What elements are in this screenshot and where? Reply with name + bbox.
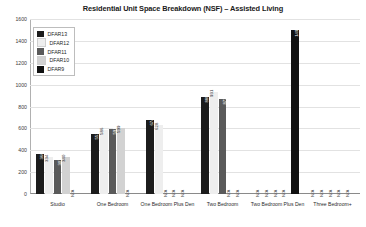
bar-slot: N/A xyxy=(311,19,319,194)
bar-value-label: 599 xyxy=(117,126,121,133)
legend-label: DFAR9 xyxy=(48,66,65,72)
bar[interactable]: 334 xyxy=(45,157,53,194)
x-axis-category-label: One Bedroom xyxy=(85,196,140,218)
y-axis-tick-label: 1200 xyxy=(15,60,27,66)
bar-slot: N/A xyxy=(265,19,273,194)
chart-legend: DFAR13DFAR12DFAR11DFAR10DFAR9 xyxy=(33,27,75,76)
y-axis-tick-label: 400 xyxy=(18,147,27,153)
y-axis-tick-label: 1400 xyxy=(15,38,27,44)
bar-value-label: 931 xyxy=(209,90,213,97)
x-axis-category-label: Two Bedroom xyxy=(195,196,250,218)
bar-slot: N/A xyxy=(329,19,337,194)
bar-slot: 931 xyxy=(210,19,218,194)
bar-slot: N/A xyxy=(320,19,328,194)
bar-slot: 628 xyxy=(155,19,163,194)
bar[interactable]: 340 xyxy=(62,157,70,194)
legend-swatch xyxy=(37,56,46,65)
legend-swatch xyxy=(37,66,44,73)
y-axis-tick-label: 1000 xyxy=(15,82,27,88)
y-axis-tick-label: 800 xyxy=(18,104,27,110)
chart-container: Residential Unit Space Breakdown (NSF) –… xyxy=(0,0,366,227)
legend-label: DFAR11 xyxy=(48,49,67,55)
legend-swatch xyxy=(37,48,44,55)
bar[interactable]: 1497 xyxy=(291,30,299,194)
bar-slot: 586 xyxy=(100,19,108,194)
bar-value-label: 1497 xyxy=(295,27,299,37)
bar-value-label: 340 xyxy=(62,154,66,161)
bar-group: 888931873N/AN/A xyxy=(195,19,250,194)
bar-slot: N/A xyxy=(181,19,189,194)
bar-value-label: 873 xyxy=(223,97,227,104)
y-axis-tick-label: 1600 xyxy=(15,16,27,22)
bar[interactable]: 591 xyxy=(109,129,117,194)
bar[interactable]: 307 xyxy=(54,160,62,194)
bar-group: N/AN/AN/AN/A1497 xyxy=(250,19,305,194)
bar-slot: N/A xyxy=(126,19,134,194)
bar-slot: 674 xyxy=(146,19,154,194)
legend-item[interactable]: DFAR9 xyxy=(37,66,69,73)
legend-label: DFAR10 xyxy=(50,57,70,63)
legend-label: DFAR12 xyxy=(50,40,70,46)
x-axis-category-label: Three Bedroom+ xyxy=(305,196,360,218)
bar[interactable]: 551 xyxy=(91,134,99,194)
bar[interactable]: 599 xyxy=(117,128,125,194)
bar-slot: N/A xyxy=(337,19,345,194)
bar-slot: 1497 xyxy=(291,19,299,194)
bar-slot: N/A xyxy=(172,19,180,194)
y-axis-tick-label: 600 xyxy=(18,125,27,131)
bar-slot: N/A xyxy=(164,19,172,194)
bar-slot: 591 xyxy=(109,19,117,194)
y-axis-tick-label: 200 xyxy=(18,169,27,175)
bar-slot: N/A xyxy=(256,19,264,194)
bar-value-label: 334 xyxy=(44,155,48,162)
legend-label: DFAR13 xyxy=(48,31,68,37)
legend-item[interactable]: DFAR13 xyxy=(37,31,69,38)
legend-item[interactable]: DFAR11 xyxy=(37,48,69,55)
legend-swatch xyxy=(37,38,46,47)
bar-slot: N/A xyxy=(346,19,354,194)
bar-value-label: 586 xyxy=(99,127,103,134)
bar[interactable]: 931 xyxy=(210,92,218,194)
bar-slot: 551 xyxy=(91,19,99,194)
bar[interactable]: 628 xyxy=(155,125,163,194)
plot-area: 02004006008001000120014001600 3663343073… xyxy=(30,19,360,194)
legend-item[interactable]: DFAR12 xyxy=(37,38,69,47)
bar[interactable]: 674 xyxy=(146,120,154,194)
bar-slot: N/A xyxy=(274,19,282,194)
bar-group: N/AN/AN/AN/AN/A xyxy=(305,19,360,194)
x-axis-category-label: Studio xyxy=(30,196,85,218)
bar-groups: 366334307340N/A551586591599N/A674628N/AN… xyxy=(30,19,360,194)
bar-group: 551586591599N/A xyxy=(85,19,140,194)
bar-slot: 873 xyxy=(219,19,227,194)
bar-slot: 599 xyxy=(117,19,125,194)
bar-slot: 888 xyxy=(201,19,209,194)
bar-group: 674628N/AN/AN/A xyxy=(140,19,195,194)
bar-slot: N/A xyxy=(227,19,235,194)
y-axis-tick-label: 0 xyxy=(24,191,27,197)
bar-slot: N/A xyxy=(282,19,290,194)
bar[interactable]: 586 xyxy=(100,130,108,194)
legend-swatch xyxy=(37,31,44,38)
bar-value-label: 628 xyxy=(154,123,158,130)
bar-slot: N/A xyxy=(236,19,244,194)
x-axis-labels: StudioOne BedroomOne Bedroom Plus DenTwo… xyxy=(30,196,360,218)
bar[interactable]: 888 xyxy=(201,97,209,194)
legend-item[interactable]: DFAR10 xyxy=(37,56,69,65)
x-axis-category-label: Two Bedroom Plus Den xyxy=(250,196,305,218)
chart-title: Residential Unit Space Breakdown (NSF) –… xyxy=(0,4,366,13)
bar[interactable]: 873 xyxy=(219,99,227,194)
bar[interactable]: 366 xyxy=(36,154,44,194)
x-axis-category-label: One Bedroom Plus Den xyxy=(140,196,195,218)
